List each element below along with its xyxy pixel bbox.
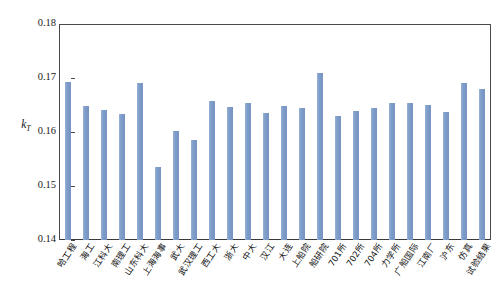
- bar-slot: [113, 24, 131, 240]
- bar-slot: [221, 24, 239, 240]
- bar[interactable]: [137, 83, 143, 240]
- x-tick-label-text: 浙大: [223, 242, 240, 262]
- bar-slot: [167, 24, 185, 240]
- bar-slot: [185, 24, 203, 240]
- bar-slot: [437, 24, 455, 240]
- y-tick-label: 0.17: [22, 71, 56, 82]
- bar-slot: [419, 24, 437, 240]
- y-tick-label: 0.18: [22, 17, 56, 28]
- x-tick-label-text: 汉江: [259, 242, 276, 262]
- x-tick-label-text: 哈工程: [56, 242, 78, 269]
- bar[interactable]: [461, 83, 467, 240]
- bar-slot: [455, 24, 473, 240]
- bar-slot: [257, 24, 275, 240]
- bar-slot: [365, 24, 383, 240]
- bar[interactable]: [191, 140, 197, 240]
- bar-slot: [149, 24, 167, 240]
- bar[interactable]: [65, 82, 71, 240]
- x-axis-labels: 哈工程海工江科大南理工山东科大上海海事武大武汉理工西工大浙大中大汉江大连上船院船…: [59, 240, 491, 301]
- bar-slot: [401, 24, 419, 240]
- bar[interactable]: [281, 106, 287, 240]
- bar-slot: [347, 24, 365, 240]
- bar-slot: [95, 24, 113, 240]
- bar-slot: [311, 24, 329, 240]
- bar[interactable]: [479, 89, 485, 240]
- bar-slot: [293, 24, 311, 240]
- bar-slot: [275, 24, 293, 240]
- bar-slot: [239, 24, 257, 240]
- bar[interactable]: [263, 113, 269, 240]
- bar-slot: [59, 24, 77, 240]
- bar-slot: [77, 24, 95, 240]
- x-tick-label-text: 中大: [241, 242, 258, 262]
- y-axis: 0.180.170.160.150.14: [16, 0, 56, 301]
- y-tick-label: 0.16: [22, 125, 56, 136]
- y-tick-label: 0.14: [22, 233, 56, 244]
- bar[interactable]: [245, 103, 251, 240]
- bars-layer: [59, 24, 491, 240]
- bar[interactable]: [389, 103, 395, 240]
- bar-slot: [473, 24, 491, 240]
- bar[interactable]: [299, 108, 305, 240]
- bar-slot: [383, 24, 401, 240]
- bar-slot: [203, 24, 221, 240]
- x-tick-label-text: 沪东: [439, 242, 456, 262]
- bar-slot: [131, 24, 149, 240]
- bar[interactable]: [317, 73, 323, 240]
- bar-chart: kT 0.180.170.160.150.14 哈工程海工江科大南理工山东科大上…: [0, 0, 503, 301]
- bar[interactable]: [101, 110, 107, 240]
- bar-slot: [329, 24, 347, 240]
- y-tick-label: 0.15: [22, 179, 56, 190]
